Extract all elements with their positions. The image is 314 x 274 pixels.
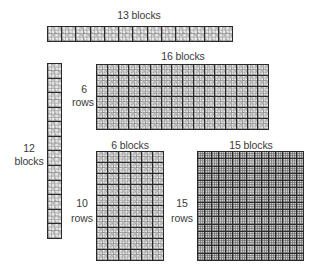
block-cell (226, 174, 232, 180)
block-cell (162, 97, 172, 107)
block-cell (142, 228, 152, 238)
block-cell (108, 217, 118, 227)
block-cell (119, 76, 129, 86)
block-cell (283, 239, 289, 245)
block-cell (97, 239, 107, 249)
block-cell (119, 152, 129, 162)
block-cell (105, 27, 118, 41)
block-cell (247, 232, 253, 238)
block-cell (131, 152, 141, 162)
block-cell (226, 196, 232, 202)
block-cell (283, 188, 289, 194)
block-cell (276, 217, 282, 223)
block-cell (226, 167, 232, 173)
block-cell (283, 217, 289, 223)
block-cell (248, 108, 258, 118)
block-cell (172, 119, 182, 129)
block-cell (153, 250, 163, 260)
block-cell (226, 246, 232, 252)
block-cell (108, 239, 118, 249)
block-cell (153, 185, 163, 195)
block-cell (212, 159, 218, 165)
block-cell (198, 217, 204, 223)
block-cell (212, 167, 218, 173)
block-cell (255, 232, 261, 238)
block-cell (240, 239, 246, 245)
vertical-strip-unit: blocks (12, 156, 46, 167)
block-cell (255, 246, 261, 252)
block-cell (226, 239, 232, 245)
block-cell (255, 239, 261, 245)
block-cell (194, 65, 204, 75)
block-cell (226, 152, 232, 158)
block-cell (233, 232, 239, 238)
block-cell (129, 119, 139, 129)
block-cell (255, 217, 261, 223)
block-cell (290, 188, 296, 194)
block-cell (240, 188, 246, 194)
block-cell (129, 76, 139, 86)
block-cell (205, 167, 211, 173)
block-cell (151, 108, 161, 118)
block-cell (97, 163, 107, 173)
block-cell (276, 254, 282, 260)
block-cell (269, 152, 275, 158)
block-cell (198, 196, 204, 202)
block-cell (108, 152, 118, 162)
block-cell (255, 174, 261, 180)
block-cell (212, 203, 218, 209)
block-cell (140, 97, 150, 107)
block-cell (269, 232, 275, 238)
block-cell (97, 152, 107, 162)
block-cell (119, 27, 132, 41)
block-cell (226, 217, 232, 223)
block-cell (48, 122, 61, 136)
block-cell (290, 225, 296, 231)
grid-16-top-label: 16 blocks (154, 51, 212, 62)
block-cell (233, 152, 239, 158)
grid-15-side-unit: rows (168, 213, 196, 224)
block-cell (262, 254, 268, 260)
block-cell (215, 108, 225, 118)
block-cell (262, 188, 268, 194)
block-cell (283, 232, 289, 238)
block-cell (133, 27, 146, 41)
block-cell (172, 87, 182, 97)
block-cell (97, 87, 107, 97)
block-cell (233, 159, 239, 165)
block-cell (269, 159, 275, 165)
block-cell (283, 152, 289, 158)
block-cell (172, 108, 182, 118)
block-cell (297, 152, 303, 158)
block-cell (140, 119, 150, 129)
block-cell (119, 185, 129, 195)
block-cell (212, 232, 218, 238)
block-cell (219, 27, 232, 41)
block-cell (283, 159, 289, 165)
block-cell (48, 79, 61, 93)
grid-16-side-count: 6 (74, 84, 94, 95)
block-cell (262, 196, 268, 202)
block-cell (219, 181, 225, 187)
block-cell (237, 76, 247, 86)
block-cell (119, 196, 129, 206)
block-cell (108, 174, 118, 184)
block-cell (247, 196, 253, 202)
block-cell (215, 97, 225, 107)
block-cell (153, 228, 163, 238)
block-cell (205, 210, 211, 216)
block-cell (140, 87, 150, 97)
block-cell (258, 108, 268, 118)
block-cell (212, 225, 218, 231)
block-cell (142, 217, 152, 227)
block-cell (255, 152, 261, 158)
block-cell (205, 217, 211, 223)
block-cell (119, 250, 129, 260)
block-cell (226, 188, 232, 194)
block-cell (247, 203, 253, 209)
block-cell (48, 181, 61, 195)
block-cell (198, 174, 204, 180)
block-cell (97, 196, 107, 206)
block-cell (269, 210, 275, 216)
block-cell (255, 196, 261, 202)
